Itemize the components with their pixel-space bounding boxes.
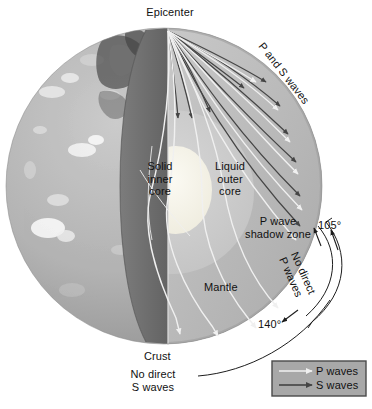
label-angle-105: 105° (318, 219, 341, 232)
no-direct-s-waves-line-1: No direct (110, 368, 196, 381)
angle-140-arrow (282, 310, 298, 322)
label-angle-140: 140° (258, 318, 281, 331)
label-p-wave-shadow-zone: P wave shadow zone (230, 215, 326, 240)
liquid-outer-core-line-1: Liquid (200, 160, 260, 173)
label-no-direct-s-waves: No direct S waves (110, 368, 196, 393)
seismic-diagram: Epicenter P and S waves Solid inner core… (0, 0, 372, 409)
earth-cross-section-svg (0, 0, 372, 409)
p-wave-shadow-zone-line-1: P wave (230, 215, 326, 228)
legend-label-s-waves: S waves (316, 379, 358, 392)
label-crust: Crust (144, 350, 171, 363)
label-solid-inner-core: Solid inner core (130, 160, 190, 198)
solid-inner-core-line-1: Solid (130, 160, 190, 173)
label-liquid-outer-core: Liquid outer core (200, 160, 260, 198)
liquid-outer-core-line-2: outer (200, 173, 260, 186)
p-wave-shadow-zone-line-2: shadow zone (230, 228, 326, 241)
label-epicenter: Epicenter (124, 6, 216, 19)
label-mantle: Mantle (204, 281, 238, 294)
legend-label-p-waves: P waves (316, 365, 358, 378)
no-direct-s-waves-line-2: S waves (110, 381, 196, 394)
solid-inner-core-line-2: inner (130, 173, 190, 186)
solid-inner-core-line-3: core (130, 185, 190, 198)
liquid-outer-core-line-3: core (200, 185, 260, 198)
